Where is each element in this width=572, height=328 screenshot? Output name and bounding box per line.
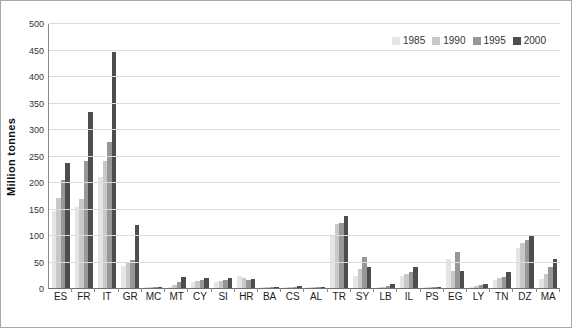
bar-TR-2000 — [344, 216, 349, 288]
x-tick-label-FR: FR — [72, 291, 95, 302]
x-tick-label-IL: IL — [397, 291, 420, 302]
x-tick-label-MA: MA — [537, 291, 560, 302]
y-tick-label-150: 150 — [15, 205, 44, 215]
y-tick-label-250: 250 — [15, 152, 44, 162]
x-tick-label-MT: MT — [165, 291, 188, 302]
legend-label-1995: 1995 — [484, 35, 506, 46]
legend-item-1990: 1990 — [432, 35, 465, 46]
gridline-350 — [49, 103, 560, 104]
x-tick-label-CS: CS — [281, 291, 304, 302]
x-tick-label-TR: TR — [328, 291, 351, 302]
x-tick-label-BA: BA — [258, 291, 281, 302]
legend-swatch-1995 — [473, 37, 481, 45]
x-tick-label-LB: LB — [374, 291, 397, 302]
bar-HR-2000 — [251, 279, 256, 288]
legend-item-2000: 2000 — [513, 35, 546, 46]
legend-label-1985: 1985 — [403, 35, 425, 46]
bar-SY-2000 — [367, 267, 372, 288]
x-tick-label-MC: MC — [142, 291, 165, 302]
x-tick-label-SI: SI — [212, 291, 235, 302]
gridline-200 — [49, 182, 560, 183]
gridline-450 — [49, 50, 560, 51]
bar-PS-2000 — [437, 287, 442, 288]
x-tick-label-AL: AL — [304, 291, 327, 302]
x-tick-label-CY: CY — [188, 291, 211, 302]
x-tick-label-EG: EG — [444, 291, 467, 302]
x-tick-label-IT: IT — [95, 291, 118, 302]
legend-swatch-1990 — [432, 37, 440, 45]
x-tick-label-SY: SY — [351, 291, 374, 302]
y-tick-label-400: 400 — [15, 72, 44, 82]
legend-item-1995: 1995 — [473, 35, 506, 46]
bar-LB-2000 — [390, 284, 395, 288]
bar-TN-2000 — [506, 272, 511, 288]
gridline-100 — [49, 235, 560, 236]
x-tick-label-GR: GR — [119, 291, 142, 302]
y-tick-label-500: 500 — [15, 19, 44, 29]
y-tick-label-100: 100 — [15, 231, 44, 241]
x-tick-label-PS: PS — [421, 291, 444, 302]
plot-area: ESFRITGRMCMTCYSIHRBACSALTRSYLBILPSEGLYTN… — [48, 24, 560, 289]
gridline-150 — [49, 209, 560, 210]
bar-MA-2000 — [553, 259, 558, 288]
x-axis-tick-MA — [559, 288, 560, 292]
legend-label-1990: 1990 — [443, 35, 465, 46]
legend-label-2000: 2000 — [524, 35, 546, 46]
bar-CS-2000 — [297, 286, 302, 288]
legend-swatch-2000 — [513, 37, 521, 45]
x-tick-label-DZ: DZ — [513, 291, 536, 302]
bar-IT-2000 — [112, 52, 117, 288]
x-tick-label-ES: ES — [49, 291, 72, 302]
gridline-50 — [49, 262, 560, 263]
y-tick-label-350: 350 — [15, 99, 44, 109]
gridline-300 — [49, 129, 560, 130]
bar-LY-2000 — [483, 284, 488, 288]
legend: 1985199019952000 — [392, 35, 546, 46]
gridline-250 — [49, 156, 560, 157]
y-tick-label-200: 200 — [15, 178, 44, 188]
bar-MC-2000 — [158, 287, 163, 288]
y-tick-label-300: 300 — [15, 125, 44, 135]
bar-chart-figure: Million tonnes 0501001502002503003504004… — [0, 0, 572, 328]
legend-item-1985: 1985 — [392, 35, 425, 46]
gridline-400 — [49, 76, 560, 77]
bar-IL-2000 — [413, 267, 418, 288]
legend-swatch-1985 — [392, 37, 400, 45]
y-axis-labels: 050100150200250300350400450500 — [1, 1, 45, 328]
bar-MT-2000 — [181, 277, 186, 288]
x-tick-label-HR: HR — [235, 291, 258, 302]
gridline-500 — [49, 23, 560, 24]
bar-SI-2000 — [228, 278, 233, 288]
x-tick-label-TN: TN — [490, 291, 513, 302]
bar-BA-2000 — [274, 287, 279, 288]
y-tick-label-450: 450 — [15, 46, 44, 56]
bar-CY-2000 — [204, 278, 209, 288]
y-tick-label-50: 50 — [15, 258, 44, 268]
y-tick-label-0: 0 — [15, 284, 44, 294]
x-tick-label-LY: LY — [467, 291, 490, 302]
bar-AL-2000 — [321, 287, 326, 288]
bar-EG-2000 — [460, 271, 465, 288]
